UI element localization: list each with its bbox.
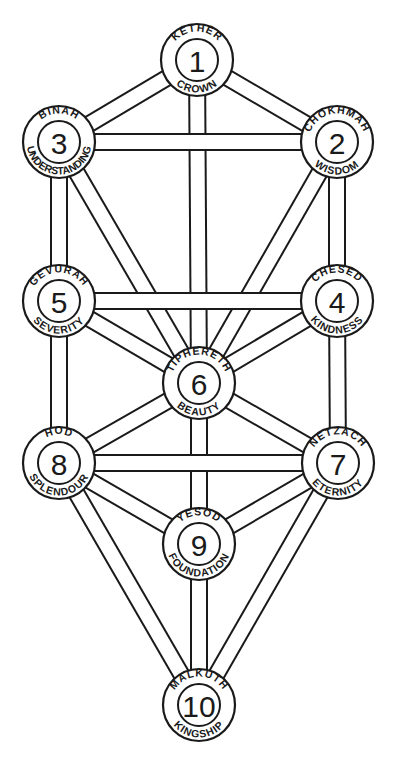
sephirah-number: 5 — [51, 286, 68, 319]
tree-of-life-diagram: 1KETHERCROWN2CHOKHMAHWISDOM3BINAHUNDERST… — [0, 0, 396, 757]
sephirah-number: 2 — [329, 127, 346, 160]
path-netzach-hod — [59, 455, 338, 471]
sephirah-number: 4 — [329, 286, 346, 319]
sephirah-yesod: 9YESODFOUNDATION — [163, 505, 235, 580]
sephirah-number: 10 — [182, 690, 215, 723]
sephirah-gevurah: 5GEVURAHSEVERITY — [23, 262, 95, 337]
path-chesed-gevurah — [59, 293, 337, 309]
sephirah-number: 3 — [51, 127, 68, 160]
sephirah-binah: 3BINAHUNDERSTANDING — [23, 103, 95, 178]
sephirah-hod: 8HODSPLENDOUR — [23, 425, 95, 499]
path-chokhmah-binah — [59, 134, 337, 150]
sephirah-number: 6 — [191, 368, 208, 401]
sephirah-number: 1 — [189, 45, 206, 78]
sephirah-number: 7 — [330, 448, 347, 481]
sephirah-kether: 1KETHERCROWN — [161, 21, 233, 96]
sephirah-netzach: 7NETZACHETERNITY — [302, 424, 374, 499]
path-kether-tiphereth — [189, 60, 207, 383]
sephirah-number: 9 — [191, 529, 208, 562]
sephirah-tiphereth: 6TIPHERETHBEAUTY — [163, 344, 235, 419]
sephirah-number: 8 — [51, 448, 68, 481]
sephirah-chokhmah: 2CHOKHMAHWISDOM — [301, 103, 373, 178]
sephirah-chesed: 4CHESEDKINDNESS — [301, 262, 373, 337]
